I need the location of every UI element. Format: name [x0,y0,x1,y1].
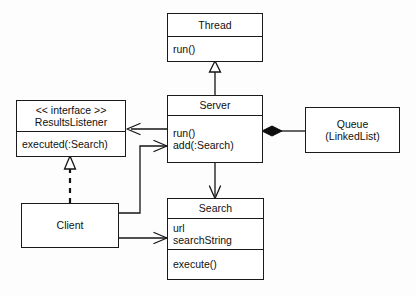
edge-server-composes-queue [262,126,305,136]
edge-server-uses-resultslistener [127,124,167,135]
search-attribute-search-string: searchString [173,234,232,247]
class-box-queue[interactable]: Queue (LinkedList) [305,107,400,153]
queue-class-name: Queue [311,118,394,131]
edge-server-extends-thread [210,61,221,95]
server-operations-compartment: run() add(:Search) [168,115,262,162]
uml-class-diagram: Thread run() Server run() add(:Search) <… [0,0,416,296]
results-listener-class-name: ResultsListener [22,116,120,129]
edge-server-uses-search [210,163,221,199]
server-operation-run: run() [173,127,195,140]
search-attribute-url: url [173,222,185,235]
class-box-thread[interactable]: Thread run() [167,13,263,62]
thread-class-name: Thread [173,19,257,32]
search-operations-compartment: execute() [168,249,263,279]
server-class-name: Server [173,99,257,112]
edge-client-implements-resultslistener [65,156,76,203]
queue-implementation-note: (LinkedList) [311,130,394,143]
results-listener-title-compartment: << interface >> ResultsListener [17,101,125,131]
client-class-name: Client [27,219,113,232]
edge-client-calls-server [119,141,167,214]
search-operation-execute: execute() [173,258,217,271]
class-box-client[interactable]: Client [21,203,119,248]
search-attributes-compartment: url searchString [168,218,263,249]
class-box-results-listener[interactable]: << interface >> ResultsListener executed… [16,100,126,157]
server-operation-add: add(:Search) [173,139,234,152]
server-title-compartment: Server [168,96,262,115]
edge-client-uses-search [119,233,167,244]
search-class-name: Search [173,202,258,215]
search-title-compartment: Search [168,199,263,218]
results-listener-stereotype: << interface >> [22,104,120,117]
client-title-compartment: Client [22,204,118,247]
thread-operations-compartment: run() [168,36,262,61]
thread-title-compartment: Thread [168,14,262,36]
results-listener-operations-compartment: executed(:Search) [17,131,125,156]
queue-title-compartment: Queue (LinkedList) [306,108,399,152]
class-box-server[interactable]: Server run() add(:Search) [167,95,263,163]
class-box-search[interactable]: Search url searchString execute() [167,198,264,280]
results-listener-operation-executed: executed(:Search) [22,138,108,151]
thread-operation-run: run() [173,43,195,56]
